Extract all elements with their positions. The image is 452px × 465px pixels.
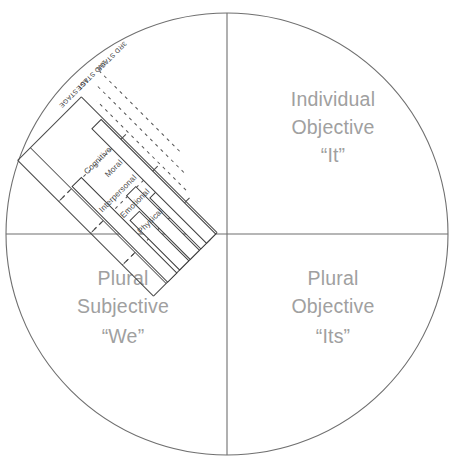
line-label-moral: Moral (103, 158, 124, 179)
quadrant-lr-line3: “Its” (316, 325, 351, 347)
stage-labels-group: 1ST STAGE 2ND STAGE 3RD STAGE (58, 40, 129, 110)
lower-tick-1 (186, 198, 190, 202)
quadrant-ll-line2: Subjective (77, 295, 169, 317)
tick-2b (92, 228, 96, 232)
tick-1b (124, 259, 128, 263)
tick-3b (60, 196, 64, 200)
graph-outer-edge (18, 97, 82, 161)
quadrant-ur-line1: Individual (291, 88, 375, 110)
quadrant-label-individual-objective: Individual Objective “It” (291, 88, 375, 166)
quadrant-label-plural-subjective: Plural Subjective “We” (77, 267, 169, 347)
tick-2a (99, 221, 103, 225)
quadrant-label-plural-objective: Plural Objective “Its” (291, 267, 374, 347)
diagram-canvas: Individual Objective “It” Plural Subject… (0, 0, 452, 465)
integral-quadrants-diagram: Individual Objective “It” Plural Subject… (0, 0, 452, 465)
quadrant-ur-line2: Objective (291, 116, 374, 138)
quadrant-lr-line1: Plural (307, 267, 358, 289)
lower-tick-2 (154, 166, 158, 170)
quadrant-lr-line2: Objective (291, 295, 374, 317)
quadrant-ur-line3: “It” (321, 144, 346, 166)
tick-1a (131, 252, 135, 256)
lower-tick-3 (122, 134, 126, 138)
tick-3a (67, 189, 71, 193)
quadrant-ll-line3: “We” (102, 325, 145, 347)
quadrant-ll-line1: Plural (97, 267, 148, 289)
